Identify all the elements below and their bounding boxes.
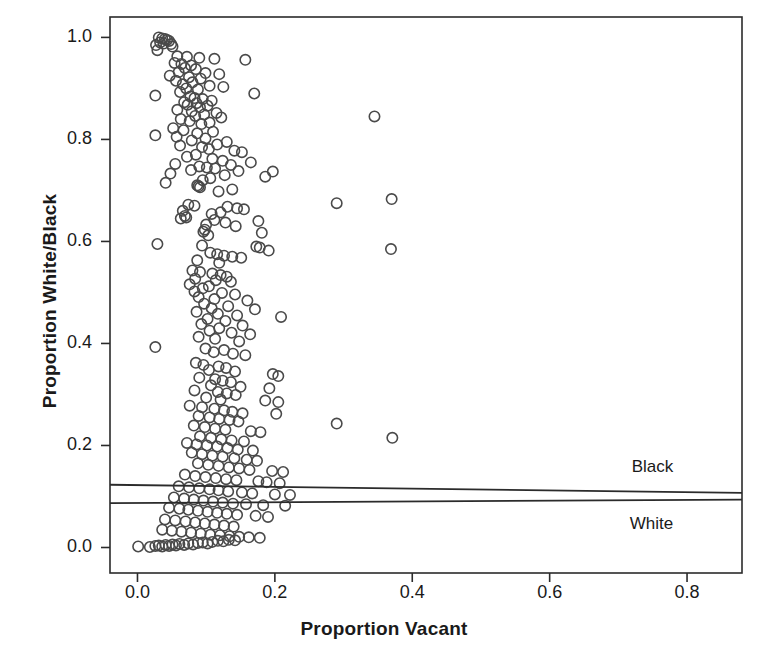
data-point bbox=[194, 372, 204, 382]
y-tick-label: 1.0 bbox=[38, 26, 92, 46]
data-point bbox=[232, 510, 242, 520]
data-point bbox=[240, 55, 250, 65]
data-point bbox=[241, 499, 251, 509]
data-point bbox=[257, 228, 267, 238]
data-point bbox=[237, 320, 247, 330]
data-point bbox=[285, 490, 295, 500]
data-point bbox=[247, 488, 257, 498]
data-point bbox=[267, 466, 277, 476]
data-point bbox=[206, 303, 216, 313]
x-tick-label: 0.0 bbox=[107, 582, 167, 603]
data-point bbox=[160, 178, 170, 188]
data-point bbox=[187, 447, 197, 457]
y-tick-label: 0.0 bbox=[38, 536, 92, 556]
data-point bbox=[189, 420, 199, 430]
data-point bbox=[246, 426, 256, 436]
data-point bbox=[260, 395, 270, 405]
data-point bbox=[200, 472, 210, 482]
data-point bbox=[214, 414, 224, 424]
x-tick-label: 0.8 bbox=[657, 582, 717, 603]
series-label-white: White bbox=[630, 514, 673, 534]
data-point bbox=[184, 400, 194, 410]
data-point bbox=[234, 336, 244, 346]
data-point bbox=[193, 506, 203, 516]
data-point bbox=[194, 483, 204, 493]
data-point bbox=[232, 310, 242, 320]
data-point bbox=[167, 525, 177, 535]
data-point bbox=[221, 474, 231, 484]
data-point bbox=[270, 489, 280, 499]
data-point bbox=[224, 462, 234, 472]
data-point bbox=[189, 201, 199, 211]
data-point bbox=[249, 88, 259, 98]
y-tick-label: 0.6 bbox=[38, 230, 92, 250]
data-point bbox=[150, 342, 160, 352]
data-point bbox=[228, 348, 238, 358]
y-axis-title: Proportion White/Black bbox=[39, 194, 61, 408]
data-point bbox=[212, 508, 222, 518]
data-point bbox=[164, 503, 174, 513]
data-point bbox=[133, 541, 143, 551]
y-tick-label: 0.8 bbox=[38, 128, 92, 148]
data-point bbox=[180, 469, 190, 479]
y-axis-ticks bbox=[101, 37, 110, 547]
data-point bbox=[150, 130, 160, 140]
data-point bbox=[242, 295, 252, 305]
data-point bbox=[222, 202, 232, 212]
data-point bbox=[369, 111, 379, 121]
data-point bbox=[230, 366, 240, 376]
data-point bbox=[190, 517, 200, 527]
data-point bbox=[255, 427, 265, 437]
data-point bbox=[211, 473, 221, 483]
data-point bbox=[240, 350, 250, 360]
data-point bbox=[273, 397, 283, 407]
data-point bbox=[200, 518, 210, 528]
data-point bbox=[204, 412, 214, 422]
data-point bbox=[245, 329, 255, 339]
scatter-plot-figure: Proportion White/Black Proportion Vacant… bbox=[0, 0, 768, 669]
data-point bbox=[190, 471, 200, 481]
data-point bbox=[205, 247, 215, 257]
data-point bbox=[250, 304, 260, 314]
data-point bbox=[244, 465, 254, 475]
data-point bbox=[198, 495, 208, 505]
data-point bbox=[152, 239, 162, 249]
x-tick-label: 0.4 bbox=[382, 582, 442, 603]
data-point bbox=[386, 244, 396, 254]
data-point bbox=[226, 328, 236, 338]
data-point bbox=[250, 511, 260, 521]
data-point bbox=[150, 90, 160, 100]
data-point bbox=[233, 166, 243, 176]
data-point bbox=[192, 255, 202, 265]
data-point bbox=[214, 323, 224, 333]
data-point bbox=[231, 221, 241, 231]
data-point bbox=[264, 383, 274, 393]
data-point bbox=[231, 475, 241, 485]
data-point bbox=[191, 307, 201, 317]
data-point bbox=[237, 147, 247, 157]
data-point bbox=[268, 166, 278, 176]
data-point bbox=[263, 512, 273, 522]
data-point bbox=[253, 216, 263, 226]
data-point bbox=[204, 281, 214, 291]
data-point bbox=[223, 486, 233, 496]
data-point bbox=[220, 217, 230, 227]
data-point bbox=[242, 455, 252, 465]
data-point bbox=[202, 507, 212, 517]
data-point bbox=[387, 433, 397, 443]
scatter-points bbox=[133, 32, 398, 552]
data-point bbox=[228, 498, 238, 508]
data-point bbox=[194, 53, 204, 63]
data-point bbox=[193, 458, 203, 468]
plot-canvas bbox=[0, 0, 768, 669]
data-point bbox=[222, 509, 232, 519]
data-point bbox=[204, 81, 214, 91]
data-point bbox=[208, 496, 218, 506]
data-point bbox=[214, 69, 224, 79]
data-point bbox=[220, 316, 230, 326]
data-point bbox=[248, 445, 258, 455]
data-point bbox=[332, 198, 342, 208]
y-axis-title-wrapper: Proportion White/Black bbox=[39, 21, 65, 581]
x-axis-title: Proportion Vacant bbox=[0, 618, 768, 640]
data-point bbox=[222, 137, 232, 147]
